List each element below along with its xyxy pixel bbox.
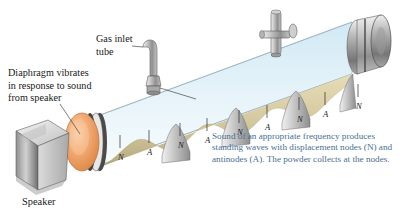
marker-label-n-8: N [356, 101, 362, 111]
marker-label-a-7: A [323, 109, 328, 119]
gas-inlet-label: Gas inlet tube [96, 33, 133, 58]
marker-label-n-0: N [118, 152, 124, 162]
diaphragm [65, 113, 107, 171]
kundt-tube-figure: Diaphragm vibrates in response to sound … [0, 0, 408, 221]
marker-label-n-4: N [237, 127, 243, 137]
diaphragm-label: Diaphragm vibrates in response to sound … [8, 67, 91, 105]
apparatus-illustration [0, 0, 408, 221]
speaker-label: Speaker [22, 196, 55, 209]
tube-end-cap [347, 15, 391, 74]
marker-label-n-2: N [178, 140, 184, 150]
gas-inlet-tube [143, 40, 161, 95]
marker-label-a-5: A [265, 122, 270, 132]
marker-label-a-3: A [205, 135, 210, 145]
marker-label-n-6: N [297, 114, 303, 124]
marker-label-a-1: A [147, 147, 152, 157]
speaker-box [16, 120, 69, 195]
